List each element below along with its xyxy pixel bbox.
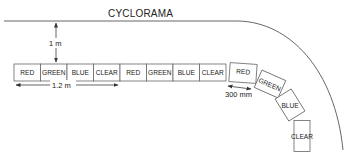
- unit-box: CLEAR: [291, 121, 313, 152]
- unit-box: RED: [14, 64, 41, 81]
- unit-box: BLUE: [67, 64, 94, 81]
- unit-label: RED: [20, 69, 34, 76]
- unit-box: GREEN: [41, 64, 68, 81]
- cyclorama-lighting-diagram: CYCLORAMA 1 m RED GREEN BLUE CLEAR RED G…: [0, 0, 359, 160]
- unit-box: RED: [229, 63, 257, 84]
- unit-box: CLEAR: [94, 64, 121, 81]
- unit-box: BLUE: [173, 64, 200, 81]
- unit-spacing-arrow: [228, 86, 251, 89]
- unit-label: RED: [236, 68, 251, 76]
- unit-box: GREEN: [147, 64, 174, 81]
- unit-label: BLUE: [72, 69, 90, 76]
- unit-label: CLEAR: [202, 69, 224, 76]
- unit-label: GREEN: [42, 69, 66, 76]
- group-width-label: 1.2 m: [52, 81, 71, 90]
- unit-label: CLEAR: [96, 69, 118, 76]
- unit-box: RED: [120, 64, 147, 81]
- straight-row: RED GREEN BLUE CLEAR RED GREEN BLUE CLE: [14, 64, 226, 81]
- unit-label: BLUE: [178, 69, 196, 76]
- distance-label: 1 m: [49, 39, 62, 48]
- unit-box: GREEN: [254, 70, 285, 98]
- unit-label: RED: [126, 69, 140, 76]
- unit-label: BLUE: [281, 102, 299, 109]
- unit-label: CLEAR: [291, 133, 313, 140]
- unit-box: CLEAR: [200, 64, 227, 81]
- curved-row: RED GREEN BLUE CLEAR: [229, 63, 313, 152]
- cyclorama-title: CYCLORAMA: [108, 8, 173, 19]
- unit-label: GREEN: [148, 69, 172, 76]
- unit-spacing-label: 300 mm: [225, 90, 252, 99]
